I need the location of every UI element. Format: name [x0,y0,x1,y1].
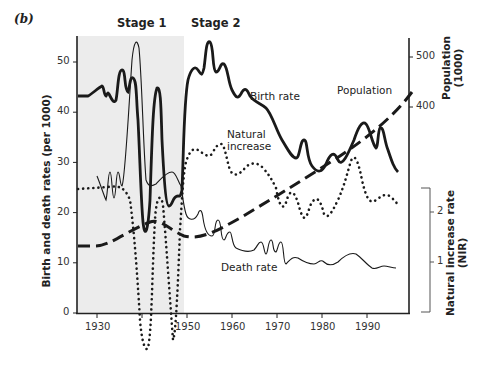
x-tick-1960: 1960 [220,321,245,332]
left-axis-label: Birth and death rates (per 1000) [40,81,52,301]
stage-2-label: Stage 2 [191,16,241,30]
nir-axis-label-line1: Natural increase rate [444,178,456,328]
x-tick-1950: 1950 [175,321,200,332]
population-axis-label-line1: Population [440,8,452,128]
y-tick-0: 0 [63,306,69,317]
x-tick-1970: 1970 [265,321,290,332]
population-axis-label: Population (1000) [440,8,464,128]
y-tick-30: 30 [57,156,70,167]
natural-increase-label-line1: Natural [227,128,266,140]
y-tick-50: 50 [57,55,70,66]
population-axis-label-line2: (1000) [452,8,464,128]
x-tick-1980: 1980 [310,321,335,332]
nir-axis-label: Natural increase rate (NIR) [444,178,468,328]
nir-axis-bracket [421,188,434,312]
birth-rate-label: Birth rate [250,90,300,102]
panel-label: (b) [14,12,34,26]
nir-axis-label-line2: (NIR) [456,178,468,328]
stage-1-label: Stage 1 [117,16,167,30]
y-tick-10: 10 [57,256,70,267]
death-rate-label: Death rate [221,261,277,273]
y-tick-20: 20 [57,206,70,217]
nir-tick-1: 1 [437,255,443,266]
x-tick-1930: 1930 [85,321,110,332]
natural-increase-label-line2: increase [227,140,271,152]
pop-tick-500: 500 [416,50,435,61]
population-label: Population [337,84,392,96]
pop-tick-400: 400 [416,100,435,111]
x-tick-1990: 1990 [355,321,380,332]
y-tick-40: 40 [57,105,70,116]
nir-tick-2: 2 [437,205,443,216]
demographic-transition-chart [0,0,483,371]
